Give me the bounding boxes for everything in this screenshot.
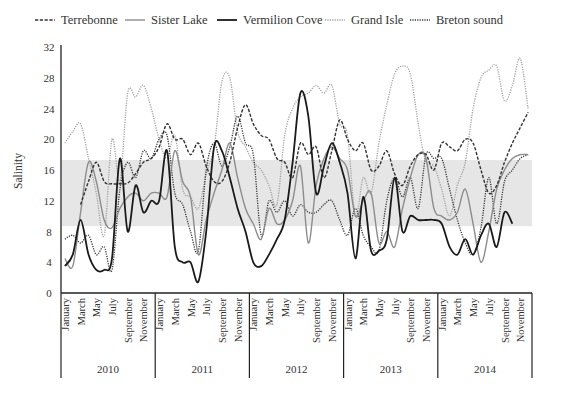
month-label: March [358, 297, 369, 325]
year-label: 2011 [192, 363, 214, 375]
month-label: September [123, 298, 134, 343]
month-label: January [154, 297, 165, 330]
month-label: January [60, 297, 71, 330]
month-label: March [76, 297, 87, 325]
legend-label: Sister Lake [151, 13, 208, 27]
y-tick-label: 12 [44, 195, 55, 207]
month-label: September [311, 298, 322, 343]
month-label: March [452, 297, 463, 325]
month-label: January [343, 297, 354, 330]
y-tick-label: 4 [46, 256, 52, 268]
y-axis-label: Salinity [12, 153, 25, 189]
month-label: January [248, 297, 259, 330]
month-label: May [374, 297, 385, 317]
month-label: July [107, 297, 118, 315]
legend-item-breton-sound: Breton sound [410, 13, 504, 27]
legend-label: Grand Isle [351, 13, 404, 27]
salinity-line-chart: TerrebonneSister LakeVermilion CoveGrand… [0, 0, 561, 400]
year-label: 2010 [97, 363, 120, 375]
legend: TerrebonneSister LakeVermilion CoveGrand… [35, 13, 504, 27]
y-tick-label: 16 [44, 164, 56, 176]
month-label: September [405, 298, 416, 343]
y-tick-label: 8 [46, 226, 52, 238]
month-label: March [264, 297, 275, 325]
year-label: 2013 [380, 363, 403, 375]
month-label: November [327, 298, 338, 343]
month-label: November [138, 298, 149, 343]
y-tick-label: 20 [44, 133, 56, 145]
y-tick-label: 0 [46, 287, 52, 299]
month-label: July [295, 297, 306, 315]
month-label: July [201, 297, 212, 315]
legend-item-sister-lake: Sister Lake [125, 13, 208, 27]
month-label: March [170, 297, 181, 325]
month-label: May [186, 297, 197, 317]
year-label: 2014 [474, 363, 497, 375]
y-tick-label: 24 [44, 103, 56, 115]
month-label: July [390, 297, 401, 315]
month-label: May [468, 297, 479, 317]
y-tick-label: 28 [44, 72, 56, 84]
month-label: July [484, 297, 495, 315]
month-label: September [217, 298, 228, 343]
legend-item-vermilion-cove: Vermilion Cove [217, 13, 323, 27]
legend-label: Breton sound [436, 13, 504, 27]
month-label: May [280, 297, 291, 317]
legend-label: Vermilion Cove [243, 13, 323, 27]
month-label: November [515, 298, 526, 343]
legend-label: Terrebonne [61, 13, 118, 27]
legend-item-grand-isle: Grand Isle [325, 13, 404, 27]
month-label: September [500, 298, 511, 343]
y-tick-label: 32 [44, 41, 55, 53]
year-label: 2012 [286, 363, 308, 375]
month-label: May [91, 297, 102, 317]
month-label: January [437, 297, 448, 330]
month-label: November [421, 298, 432, 343]
month-label: November [233, 298, 244, 343]
legend-item-terrebonne: Terrebonne [35, 13, 118, 27]
